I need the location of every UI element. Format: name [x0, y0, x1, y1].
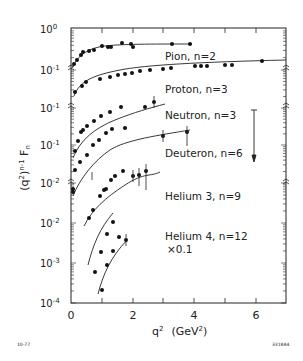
- svg-text:10-2: 10-2: [40, 177, 60, 189]
- x-axis-title: q2(GeV2): [152, 325, 207, 338]
- svg-text:10-1: 10-1: [40, 102, 60, 114]
- helium3-curve: [84, 172, 160, 226]
- footer-right-code: 3318A4: [272, 342, 290, 347]
- footer-left-code: 10-77: [17, 342, 30, 347]
- label-pion: Pion, n=2: [165, 50, 216, 62]
- svg-text:4: 4: [191, 309, 198, 322]
- svg-text:10-3: 10-3: [40, 257, 60, 269]
- neutron-curve: [73, 104, 165, 158]
- helium4-curve-a: [88, 213, 113, 265]
- fit-curves: [72, 44, 286, 294]
- svg-text:10-4: 10-4: [40, 297, 60, 309]
- down-arrow-icon: [251, 110, 257, 162]
- svg-text:10-1: 10-1: [40, 64, 60, 76]
- label-helium4: Helium 4, n=12: [165, 230, 248, 242]
- x-tick-labels: 0 2 4 6: [68, 309, 260, 322]
- y-axis-title: (q2)n-1 Fn: [18, 145, 32, 191]
- y-axis-ticks: [71, 31, 286, 303]
- series-labels: Pion, n=2 Proton, n=3 Neutron, n=3 Deute…: [165, 50, 248, 255]
- form-factor-chart: 100 10-1 10-1 10-1 10-2 10-2 10-3 10-4 (…: [0, 0, 303, 361]
- label-helium4-scale: ×0.1: [167, 243, 193, 255]
- helium4-curve-b: [98, 240, 127, 294]
- svg-text:10-1: 10-1: [40, 139, 60, 151]
- svg-text:10-2: 10-2: [40, 217, 60, 229]
- svg-text:100: 100: [40, 23, 57, 35]
- svg-text:0: 0: [68, 309, 75, 322]
- label-proton: Proton, n=3: [165, 83, 228, 95]
- label-neutron: Neutron, n=3: [165, 109, 236, 121]
- label-deuteron: Deuteron, n=6: [165, 147, 243, 159]
- deuteron-curve: [73, 130, 190, 196]
- plot-frame: [71, 28, 286, 303]
- y-tick-labels: 100 10-1 10-1 10-1 10-2 10-2 10-3 10-4: [40, 23, 60, 309]
- label-helium3: Helium 3, n=9: [165, 190, 241, 202]
- svg-text:6: 6: [253, 309, 260, 322]
- svg-text:2: 2: [130, 309, 137, 322]
